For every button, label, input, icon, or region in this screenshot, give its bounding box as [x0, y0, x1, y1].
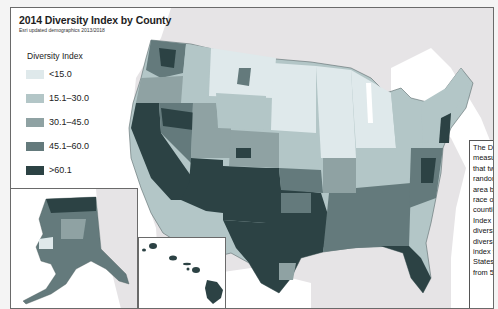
island-molokai [183, 263, 191, 265]
map-subtitle: Esri updated demographics 2013/2018 [19, 27, 105, 33]
canada-land [96, 189, 137, 309]
legend-label: >60.1 [49, 165, 72, 175]
region-colorado-dense [236, 148, 251, 158]
alaska-west [39, 237, 53, 249]
region-minnesota-iowa [316, 66, 356, 158]
legend-item-45-60: 45.1–60.0 [26, 140, 89, 152]
region-oklahoma [279, 168, 323, 193]
region-new-mexico [223, 166, 266, 223]
description-line: from 54 [473, 268, 494, 278]
legend-title: Diversity Index [27, 51, 83, 61]
description-line: measur [473, 153, 494, 163]
island-kauai [149, 243, 157, 249]
legend-swatch [26, 94, 44, 103]
legend-swatch [26, 118, 44, 127]
island-maui [192, 267, 200, 273]
description-line: diversit [473, 226, 494, 236]
map-title: 2014 Diversity Index by County [19, 14, 171, 26]
island-niihau [142, 249, 146, 252]
legend-item-lt15: <15.0 [26, 68, 72, 80]
legend-label: 30.1–45.0 [49, 117, 89, 127]
description-line: random [473, 174, 494, 184]
description-line: index fo [473, 247, 494, 257]
alaska-inset[interactable] [11, 188, 138, 309]
legend-label: <15.0 [49, 69, 72, 79]
region-texas-north [281, 193, 311, 213]
legend-swatch [26, 70, 44, 79]
description-line: diverse [473, 237, 494, 247]
description-line: The Div [473, 143, 494, 153]
description-line: States i [473, 257, 494, 267]
description-line: that two [473, 164, 494, 174]
region-montana-dense [237, 68, 251, 86]
hawaii-map [139, 238, 225, 308]
alaska-interior [61, 219, 86, 239]
legend-item-15-30: 15.1–30.0 [26, 92, 89, 104]
description-line: race or [473, 195, 494, 205]
legend-item-gt60: >60.1 [26, 164, 72, 176]
region-wyoming [216, 93, 266, 130]
description-line: Index ra [473, 216, 494, 226]
legend-item-30-45: 30.1–45.0 [26, 116, 89, 128]
legend-swatch [26, 166, 44, 175]
island-hawaii [205, 280, 223, 304]
alaska-map [11, 189, 137, 309]
description-line: countie [473, 205, 494, 215]
legend-swatch [26, 142, 44, 151]
island-oahu [169, 256, 177, 261]
description-textbox: The Div measur that two random area be r… [469, 140, 494, 309]
alaska-north-slope [46, 197, 96, 213]
region-washington-dense [159, 48, 176, 68]
map-frame: 2014 Diversity Index by County Esri upda… [10, 7, 494, 309]
region-oregon [136, 76, 183, 103]
region-kansas [279, 133, 321, 168]
region-mississippi-alabama-georgia [356, 183, 411, 248]
region-dakotas-nebraska [271, 63, 316, 133]
region-missouri-arkansas [323, 158, 356, 193]
legend-label: 15.1–30.0 [49, 93, 89, 103]
hawaii-inset[interactable] [138, 237, 226, 308]
island-lanai [187, 268, 190, 271]
description-line: area be [473, 185, 494, 195]
region-texas-south [279, 263, 296, 280]
legend-label: 45.1–60.0 [49, 141, 89, 151]
